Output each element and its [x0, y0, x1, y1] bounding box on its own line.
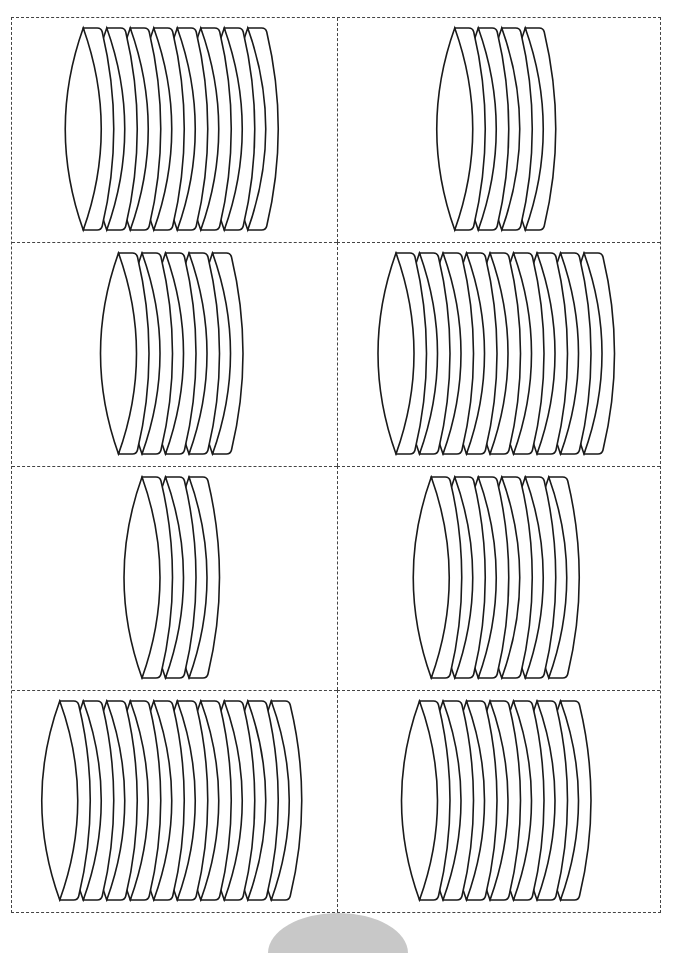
- disc-icon: [413, 477, 462, 678]
- disc-stack-icon: [12, 243, 337, 466]
- disc-stack-icon: [12, 691, 337, 912]
- disc-stack-icon: [338, 691, 660, 912]
- card-cell: Stack of 5 discs: [12, 242, 337, 466]
- disc-icon: [42, 701, 91, 900]
- card-cell: Stack of 4 discs: [337, 18, 660, 242]
- worksheet-sheet: Stack of 8 discs Stack of 4 discs Stack …: [11, 17, 661, 913]
- disc-stack-icon: [338, 467, 660, 690]
- card-cell: Stack of 6 discs: [337, 466, 660, 690]
- disc-stack-icon: [12, 18, 337, 242]
- disc-stack-icon: [338, 243, 660, 466]
- disc-icon: [124, 477, 173, 678]
- card-cell: Stack of 7 discs: [337, 690, 660, 912]
- card-cell: Stack of 10 discs: [12, 690, 337, 912]
- disc-icon: [65, 28, 114, 230]
- disc-icon: [378, 253, 427, 454]
- page-edge-shadow: [268, 913, 408, 953]
- disc-icon: [402, 701, 451, 900]
- disc-stack-icon: [338, 18, 660, 242]
- card-grid: Stack of 8 discs Stack of 4 discs Stack …: [12, 18, 660, 912]
- card-cell: Stack of 3 discs: [12, 466, 337, 690]
- card-cell: Stack of 9 discs: [337, 242, 660, 466]
- disc-icon: [101, 253, 150, 454]
- disc-icon: [437, 28, 486, 230]
- disc-stack-icon: [12, 467, 337, 690]
- card-cell: Stack of 8 discs: [12, 18, 337, 242]
